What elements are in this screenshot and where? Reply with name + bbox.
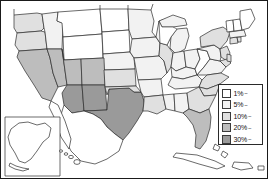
legend-label-4: 20%	[234, 123, 247, 132]
state-washington	[14, 13, 44, 33]
state-minnesota	[128, 9, 156, 39]
legend-swatch-1	[222, 89, 231, 98]
state-north-dakota	[100, 9, 129, 32]
state-louisiana	[143, 95, 166, 114]
legend-item-2: 5% ~	[222, 100, 260, 110]
legend-range-5: ~	[248, 136, 252, 142]
region-puerto-rico	[258, 166, 264, 170]
state-alabama	[174, 93, 189, 113]
state-nebraska	[103, 52, 135, 70]
state-iowa	[130, 37, 160, 58]
state-new-mexico	[82, 85, 107, 111]
map-figure: 1% ~ 5% ~ 10% ~ 20% ~ 30% ~	[0, 0, 268, 179]
legend-swatch-3	[222, 112, 231, 121]
legend-item-5: 30% ~	[222, 134, 260, 144]
legend-range-4: ~	[248, 125, 252, 131]
legend-label-5: 30%	[234, 135, 247, 144]
state-missouri	[134, 56, 167, 80]
state-montana	[57, 9, 102, 37]
legend-label-3: 10%	[234, 112, 247, 121]
state-kansas	[104, 69, 136, 87]
legend-swatch-2	[222, 100, 231, 109]
legend-item-3: 10% ~	[222, 111, 260, 121]
legend-range-3: ~	[248, 113, 252, 119]
state-oregon	[15, 31, 47, 51]
legend-range-1: ~	[244, 90, 248, 96]
legend-item-1: 1% ~	[222, 88, 260, 98]
legend-swatch-5	[222, 135, 231, 144]
map-legend: 1% ~ 5% ~ 10% ~ 20% ~ 30% ~	[218, 84, 263, 145]
legend-swatch-4	[222, 123, 231, 132]
state-vermont	[226, 20, 234, 32]
legend-item-4: 20% ~	[222, 123, 260, 133]
state-wyoming	[63, 34, 103, 60]
legend-label-2: 5%	[234, 100, 244, 109]
state-colorado	[81, 58, 105, 85]
legend-label-1: 1%	[234, 89, 244, 98]
state-south-dakota	[102, 30, 130, 54]
state-delaware	[227, 54, 231, 62]
state-rhode-island	[237, 37, 241, 42]
legend-range-2: ~	[244, 102, 248, 108]
